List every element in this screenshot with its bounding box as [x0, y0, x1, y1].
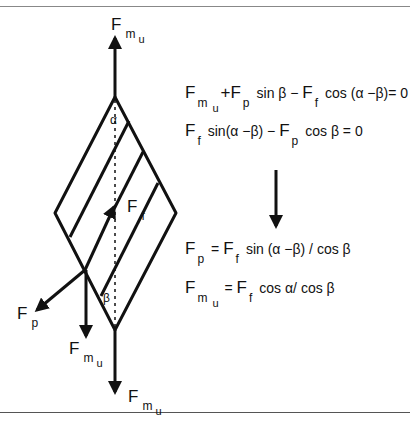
top-force-label: Fmu — [111, 16, 145, 33]
friction-force-label: Ff — [127, 198, 145, 215]
ply-line-1 — [70, 121, 129, 237]
alpha-angle-label: α — [110, 113, 117, 127]
pressure-force-arrow — [37, 270, 85, 310]
equation-4: Fmu= Ffcos α/ cos β — [185, 279, 335, 296]
left-down-force-label: Fmu — [69, 340, 103, 357]
friction-force-arrow — [85, 207, 114, 270]
bottom-force-label: Fmu — [128, 388, 162, 405]
equation-3: Fp= Ffsin (α −β) / cos β — [185, 240, 351, 257]
pressure-force-label: Fp — [17, 305, 38, 322]
equation-1: Fmu+Fpsin β − Ffcos (α −β)= 0 — [185, 84, 408, 101]
beta-angle-label: β — [103, 291, 110, 305]
equation-2: Ffsin(α −β) − Fpcos β = 0 — [185, 122, 363, 139]
rhombus-force-diagram — [0, 0, 410, 423]
